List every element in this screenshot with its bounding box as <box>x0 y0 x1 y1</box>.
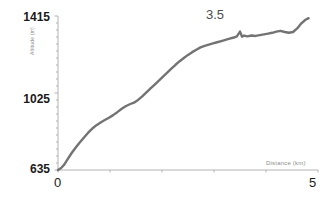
y-tick-label-mid: 1025 <box>2 92 50 106</box>
chart-canvas <box>0 0 335 209</box>
peak-annotation-label: 3.5 <box>206 7 224 22</box>
y-tick-label-max: 1415 <box>2 10 50 24</box>
elevation-line-series <box>58 18 309 170</box>
elevation-profile-chart: 1415 1025 635 0 5 Altitude (m) Distance … <box>0 0 335 209</box>
x-axis <box>58 170 318 173</box>
y-axis-ticks <box>55 16 59 170</box>
y-tick-label-min: 635 <box>2 162 50 176</box>
y-axis-title: Altitude (m) <box>29 5 35 77</box>
x-tick-label-start: 0 <box>54 175 61 190</box>
y-axis <box>55 16 59 170</box>
x-axis-title: Distance (km) <box>266 160 306 166</box>
x-tick-label-end: 5 <box>309 175 316 190</box>
